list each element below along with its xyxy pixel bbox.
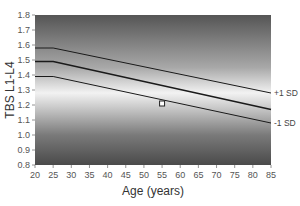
x-tick-label: 30	[66, 170, 76, 180]
y-tick-label: 1.2	[17, 100, 30, 110]
x-tick-label: 55	[157, 170, 167, 180]
x-tick-label: 35	[84, 170, 94, 180]
y-tick-label: 1.8	[17, 10, 30, 20]
x-tick-label: 75	[230, 170, 240, 180]
x-tick-label: 45	[121, 170, 131, 180]
x-tick-label: 60	[175, 170, 185, 180]
y-tick-label: 0.9	[17, 145, 30, 155]
y-tick-label: 1.4	[17, 70, 30, 80]
x-axis-title: Age (years)	[122, 184, 184, 198]
y-tick-label: 1.3	[17, 85, 30, 95]
y-tick-label: 1.1	[17, 115, 30, 125]
y-tick-label: 1.0	[17, 130, 30, 140]
x-tick-label: 25	[48, 170, 58, 180]
patient-marker	[160, 101, 165, 106]
y-axis-title: TBS L1-L4	[3, 61, 17, 119]
y-tick-label: 1.5	[17, 55, 30, 65]
minus-1-sd-label: -1 SD	[274, 118, 296, 128]
plus-1-sd-label: +1 SD	[274, 88, 298, 98]
y-tick-label: 0.8	[17, 160, 30, 170]
x-tick-label: 85	[266, 170, 276, 180]
x-tick-label: 70	[212, 170, 222, 180]
x-tick-label: 40	[103, 170, 113, 180]
x-tick-label: 65	[193, 170, 203, 180]
y-tick-label: 1.7	[17, 25, 30, 35]
plot-background	[35, 15, 271, 165]
x-tick-label: 50	[139, 170, 149, 180]
x-tick-label: 20	[30, 170, 40, 180]
y-tick-label: 1.6	[17, 40, 30, 50]
tbs-age-chart: +1 SD-1 SD 0.80.91.01.11.21.31.41.51.61.…	[0, 0, 300, 206]
x-tick-label: 80	[248, 170, 258, 180]
